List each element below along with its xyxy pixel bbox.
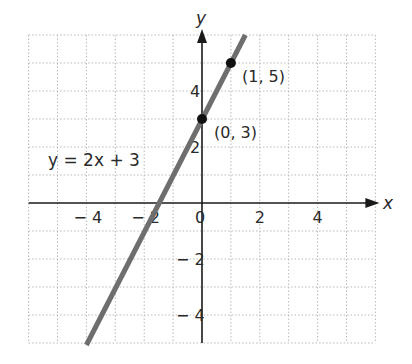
point-label-1-5: (1, 5) bbox=[242, 67, 285, 86]
coordinate-graph: − 4− 2024− 4− 224 x y y = 2x + 3 (1, 5) … bbox=[0, 0, 412, 364]
plot-line bbox=[86, 35, 245, 345]
y-axis-arrow-icon bbox=[197, 29, 207, 43]
data-point bbox=[197, 114, 207, 124]
x-tick-label: 4 bbox=[313, 208, 323, 227]
y-tick-label: − 4 bbox=[176, 306, 205, 325]
data-point bbox=[226, 58, 236, 68]
x-tick-label: 2 bbox=[255, 208, 265, 227]
x-tick-label: 0 bbox=[195, 208, 205, 227]
x-tick-label: − 4 bbox=[73, 208, 102, 227]
axes bbox=[29, 29, 380, 343]
x-axis-arrow-icon bbox=[365, 198, 379, 208]
line-y-equals-2x-plus-3 bbox=[86, 35, 245, 345]
y-tick-label: − 2 bbox=[176, 250, 205, 269]
y-tick-label: 4 bbox=[190, 82, 200, 101]
y-axis-label: y bbox=[195, 8, 207, 28]
x-axis-label: x bbox=[382, 193, 394, 213]
equation-label: y = 2x + 3 bbox=[48, 150, 140, 170]
point-label-0-3: (0, 3) bbox=[214, 123, 257, 142]
